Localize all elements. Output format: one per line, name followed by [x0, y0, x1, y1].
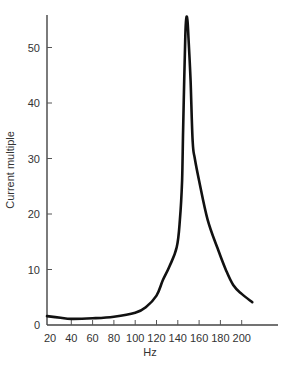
y-axis-ticks: 01020304050 — [28, 42, 52, 332]
x-tick-label: 60 — [86, 332, 98, 344]
x-tick-label: 40 — [65, 332, 77, 344]
y-tick-label: 10 — [28, 264, 40, 276]
x-tick-label: 20 — [44, 332, 56, 344]
x-axis-ticks: 20406080100120140160180200 — [44, 320, 251, 344]
x-axis-label: Hz — [143, 346, 156, 358]
x-tick-label: 160 — [190, 332, 208, 344]
x-tick-label: 80 — [108, 332, 120, 344]
resonance-chart: 01020304050 20406080100120140160180200 H… — [0, 0, 292, 372]
data-line — [47, 16, 252, 318]
y-tick-label: 50 — [28, 42, 40, 54]
y-tick-label: 40 — [28, 97, 40, 109]
y-axis-label: Current multiple — [4, 131, 16, 209]
x-tick-label: 140 — [169, 332, 187, 344]
x-tick-label: 120 — [147, 332, 165, 344]
y-tick-label: 0 — [34, 319, 40, 331]
y-tick-label: 30 — [28, 153, 40, 165]
x-tick-label: 200 — [233, 332, 251, 344]
x-tick-label: 180 — [211, 332, 229, 344]
y-tick-label: 20 — [28, 208, 40, 220]
x-tick-label: 100 — [126, 332, 144, 344]
